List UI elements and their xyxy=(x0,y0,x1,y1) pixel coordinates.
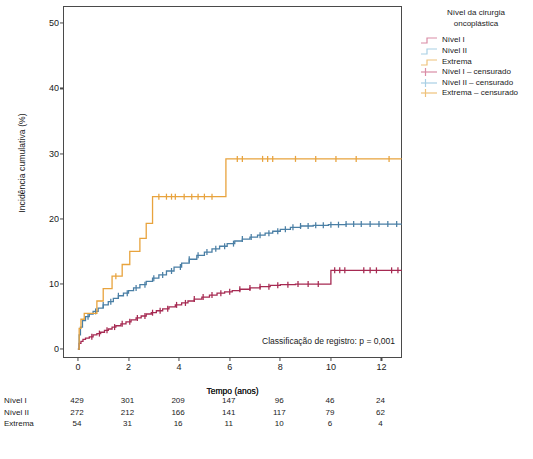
legend-item-2[interactable]: Extrema xyxy=(421,56,531,67)
risk-value: 4 xyxy=(378,419,382,428)
legend-item-4[interactable]: Nível II – censurado xyxy=(421,77,531,88)
x-tick-mark xyxy=(330,357,331,361)
series-extrema xyxy=(78,156,402,349)
x-tick-label: 12 xyxy=(376,363,386,372)
risk-value: 117 xyxy=(273,408,286,417)
x-tick-label: 8 xyxy=(278,363,283,372)
legend: Nível da cirurgia oncoplástica Nível INí… xyxy=(413,8,531,99)
risk-value: 212 xyxy=(121,408,134,417)
legend-plus-icon xyxy=(421,88,438,98)
risk-table-header: Tempo (anos) xyxy=(63,386,402,396)
y-tick-mark xyxy=(60,349,64,350)
y-tick-mark xyxy=(60,218,64,219)
figure-container: 01020304050 024681012 Incidência cumulat… xyxy=(0,0,533,459)
y-tick-mark xyxy=(60,283,64,284)
risk-value: 147 xyxy=(222,396,235,405)
risk-value: 11 xyxy=(225,419,233,428)
y-axis-label: Incidência cumulativa (%) xyxy=(17,23,27,303)
risk-value: 166 xyxy=(171,408,184,417)
risk-table-row: Extrema543116111064 xyxy=(0,419,533,431)
risk-row-label: Nível I xyxy=(4,396,27,405)
legend-item-label: Nível II – censurado xyxy=(442,79,513,87)
y-tick-label: 50 xyxy=(49,19,59,28)
x-tick-mark xyxy=(179,357,180,361)
x-tick-mark xyxy=(229,357,230,361)
risk-value: 272 xyxy=(70,408,83,417)
risk-value: 209 xyxy=(171,396,184,405)
x-tick-mark xyxy=(77,357,78,361)
risk-value: 96 xyxy=(275,396,284,405)
legend-step-icon xyxy=(421,57,438,67)
risk-value: 6 xyxy=(328,419,332,428)
risk-value: 46 xyxy=(325,396,334,405)
series-nível-ii xyxy=(78,221,402,349)
p-value-annotation: Classificação de registro: p = 0,001 xyxy=(262,336,395,346)
legend-item-label: Extrema – censurado xyxy=(442,89,518,97)
legend-title-line2: oncoplástica xyxy=(421,19,531,30)
risk-value: 31 xyxy=(123,419,132,428)
risk-value: 16 xyxy=(174,419,183,428)
legend-item-label: Nível I xyxy=(442,36,465,44)
y-tick-label: 40 xyxy=(49,84,59,93)
x-tick-label: 0 xyxy=(75,363,80,372)
legend-title: Nível da cirurgia oncoplástica xyxy=(421,8,531,29)
step-line xyxy=(78,159,402,349)
risk-row-label: Extrema xyxy=(4,419,34,428)
x-tick-label: 6 xyxy=(227,363,232,372)
legend-title-line1: Nível da cirurgia xyxy=(421,8,531,19)
x-tick-mark xyxy=(128,357,129,361)
risk-value: 10 xyxy=(275,419,284,428)
y-tick-label: 10 xyxy=(49,280,59,289)
legend-item-label: Extrema xyxy=(442,58,472,66)
x-tick-mark xyxy=(280,357,281,361)
legend-item-1[interactable]: Nível II xyxy=(421,46,531,57)
legend-item-5[interactable]: Extrema – censurado xyxy=(421,88,531,99)
y-tick-label: 30 xyxy=(49,149,59,158)
plot-area: 01020304050 024681012 xyxy=(63,6,402,358)
risk-value: 141 xyxy=(222,408,235,417)
x-tick-label: 10 xyxy=(326,363,336,372)
legend-plus-icon xyxy=(421,67,438,77)
legend-plus-icon xyxy=(421,78,438,88)
risk-table-row: Nível I429301209147964624 xyxy=(0,396,533,408)
legend-item-label: Nível I – censurado xyxy=(442,68,511,76)
legend-entries: Nível INível IIExtremaNível I – censurad… xyxy=(413,35,531,99)
legend-item-3[interactable]: Nível I – censurado xyxy=(421,67,531,78)
risk-value: 54 xyxy=(72,419,81,428)
risk-value: 301 xyxy=(121,396,134,405)
y-tick-mark xyxy=(60,23,64,24)
legend-item-label: Nível II xyxy=(442,47,467,55)
risk-row-label: Nível II xyxy=(4,408,29,417)
risk-value: 24 xyxy=(376,396,385,405)
legend-step-icon xyxy=(421,46,438,56)
cumulative-incidence-curves xyxy=(64,7,403,359)
risk-value: 429 xyxy=(70,396,83,405)
y-tick-label: 0 xyxy=(54,345,59,354)
risk-table-row: Nível II2722121661411177962 xyxy=(0,408,533,420)
risk-value: 79 xyxy=(325,408,334,417)
y-tick-mark xyxy=(60,153,64,154)
x-tick-label: 4 xyxy=(177,363,182,372)
y-tick-mark xyxy=(60,88,64,89)
risk-value: 62 xyxy=(376,408,385,417)
x-tick-mark xyxy=(381,357,382,361)
figure-caption xyxy=(4,451,529,459)
x-tick-label: 2 xyxy=(126,363,131,372)
y-tick-label: 20 xyxy=(49,214,59,223)
legend-item-0[interactable]: Nível I xyxy=(421,35,531,46)
legend-step-icon xyxy=(421,35,438,45)
